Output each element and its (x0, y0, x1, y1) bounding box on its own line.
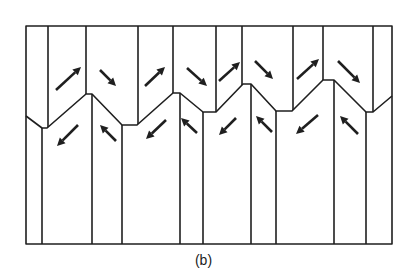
arrow-icon (255, 61, 273, 79)
lower-domain-walls (42, 80, 366, 244)
arrow-icon (296, 115, 318, 134)
magnetization-arrows (56, 59, 360, 146)
figure-caption: (b) (0, 252, 407, 268)
zigzag-boundary (26, 80, 392, 128)
arrow-icon (57, 125, 78, 146)
domain-wall-diagram (0, 0, 407, 279)
arrow-icon (100, 125, 116, 141)
arrow-icon (100, 70, 116, 86)
arrow-icon (340, 116, 358, 134)
arrow-icon (256, 116, 272, 132)
arrow-icon (187, 68, 207, 86)
arrow-icon (146, 120, 166, 139)
arrow-icon (297, 59, 319, 79)
outer-frame (26, 26, 392, 244)
arrow-icon (145, 67, 165, 86)
arrow-icon (338, 61, 360, 83)
arrow-icon (56, 67, 81, 90)
arrow-icon (181, 118, 197, 133)
arrow-icon (219, 62, 240, 81)
arrow-icon (219, 118, 236, 135)
